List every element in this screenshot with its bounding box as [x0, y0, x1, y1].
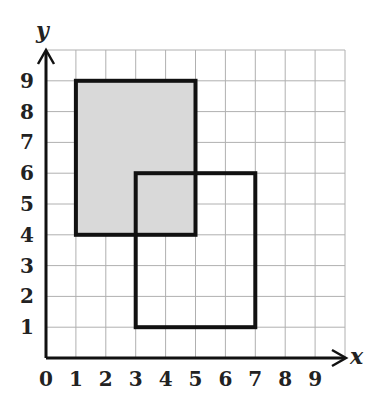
x-tick-labels: 0123456789 — [39, 367, 322, 391]
x-tick-label: 4 — [159, 367, 173, 391]
x-tick-label: 6 — [218, 367, 232, 391]
x-tick-label: 3 — [129, 367, 143, 391]
x-tick-label: 0 — [39, 367, 53, 391]
x-tick-label: 9 — [308, 367, 322, 391]
x-tick-label: 1 — [69, 367, 83, 391]
y-axis-label: y — [35, 17, 51, 43]
y-tick-label: 6 — [20, 161, 34, 185]
x-tick-label: 7 — [248, 367, 262, 391]
x-tick-label: 2 — [99, 367, 113, 391]
x-tick-label: 5 — [189, 367, 203, 391]
y-tick-label: 3 — [20, 254, 34, 278]
y-tick-labels: 123456789 — [20, 69, 34, 339]
x-axis-label: x — [349, 343, 364, 369]
y-tick-label: 4 — [20, 223, 34, 247]
y-tick-label: 5 — [20, 192, 34, 216]
coordinate-plane: y x 0123456789 123456789 — [0, 0, 378, 402]
y-tick-label: 2 — [20, 284, 34, 308]
x-tick-label: 8 — [278, 367, 292, 391]
y-tick-label: 1 — [20, 315, 34, 339]
y-tick-label: 7 — [20, 130, 34, 154]
y-tick-label: 8 — [20, 100, 34, 124]
y-tick-label: 9 — [20, 69, 34, 93]
